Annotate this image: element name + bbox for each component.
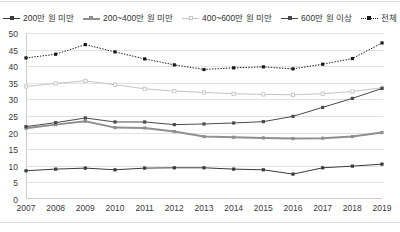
data-point-marker [351, 97, 354, 100]
data-point-marker [262, 93, 265, 96]
data-point-marker [84, 79, 87, 82]
data-point-marker [84, 120, 87, 123]
data-point-marker [143, 167, 146, 170]
data-point-marker [291, 93, 294, 96]
data-point-marker [113, 168, 116, 171]
data-point-marker [291, 115, 294, 118]
data-point-marker [232, 66, 235, 69]
data-point-marker [380, 41, 383, 44]
data-point-marker [173, 63, 176, 66]
data-point-marker [321, 106, 324, 109]
series-line [26, 43, 382, 70]
data-point-marker [321, 63, 324, 66]
legend-item-3[interactable]: 600만 원 이상 [281, 14, 352, 23]
data-point-marker [262, 120, 265, 123]
data-point-marker [143, 57, 146, 60]
series-0 [24, 163, 383, 176]
legend-item-4[interactable]: 전체 [361, 14, 397, 23]
data-point-marker [202, 135, 205, 138]
legend-label: 전체 [381, 14, 397, 23]
top-divider [0, 1, 400, 2]
y-axis-tick-label: 25 [0, 112, 18, 122]
data-point-marker [291, 67, 294, 70]
line-chart: 200만 원 미만200~400만 원 미만400~600만 원 미만600만 … [0, 0, 400, 232]
series-layer [26, 33, 382, 199]
data-point-marker [262, 168, 265, 171]
data-point-marker [262, 136, 265, 139]
x-axis-tick-label: 2019 [365, 203, 399, 213]
data-point-marker [291, 137, 294, 140]
data-point-marker [24, 125, 27, 128]
data-point-marker [380, 87, 383, 90]
legend-marker-icon [361, 14, 378, 23]
data-point-marker [84, 43, 87, 46]
data-point-marker [351, 57, 354, 60]
legend-marker-icon [3, 14, 20, 23]
bottom-divider [0, 222, 400, 223]
y-axis-tick-label: 30 [0, 95, 18, 105]
data-point-marker [202, 68, 205, 71]
data-point-marker [54, 168, 57, 171]
legend-label: 200만 원 미만 [23, 14, 74, 23]
legend-label: 600만 원 이상 [301, 14, 352, 23]
data-point-marker [262, 65, 265, 68]
data-point-marker [202, 122, 205, 125]
data-point-marker [380, 163, 383, 166]
data-point-marker [321, 92, 324, 95]
legend-label: 400~600만 원 미만 [202, 14, 272, 23]
series-2 [24, 79, 383, 96]
data-point-marker [321, 137, 324, 140]
data-point-marker [113, 50, 116, 53]
data-point-marker [202, 166, 205, 169]
data-point-marker [54, 53, 57, 56]
y-axis-tick-label: 40 [0, 62, 18, 72]
data-point-marker [54, 82, 57, 85]
y-axis-tick-label: 10 [0, 161, 18, 171]
y-axis-tick-label: 35 [0, 78, 18, 88]
data-point-marker [173, 90, 176, 93]
y-axis-tick-label: 50 [0, 29, 18, 39]
data-point-marker [54, 121, 57, 124]
data-point-marker [232, 92, 235, 95]
data-point-marker [351, 135, 354, 138]
data-point-marker [84, 116, 87, 119]
data-point-marker [321, 166, 324, 169]
data-point-marker [24, 169, 27, 172]
data-point-marker [202, 91, 205, 94]
legend-marker-icon [182, 14, 199, 23]
data-point-marker [113, 126, 116, 129]
data-point-marker [173, 123, 176, 126]
chart-legend: 200만 원 미만200~400만 원 미만400~600만 원 미만600만 … [0, 10, 400, 26]
data-point-marker [380, 131, 383, 134]
data-point-marker [232, 168, 235, 171]
data-point-marker [113, 83, 116, 86]
legend-item-0[interactable]: 200만 원 미만 [3, 14, 74, 23]
legend-item-2[interactable]: 400~600만 원 미만 [182, 14, 272, 23]
data-point-marker [291, 173, 294, 176]
y-axis-tick-label: 15 [0, 145, 18, 155]
data-point-marker [143, 120, 146, 123]
data-point-marker [84, 167, 87, 170]
data-point-marker [173, 166, 176, 169]
y-axis-tick-label: 5 [0, 178, 18, 188]
y-axis-tick-label: 45 [0, 45, 18, 55]
data-point-marker [232, 121, 235, 124]
legend-label: 200~400만 원 미만 [103, 14, 173, 23]
legend-marker-icon [83, 14, 100, 23]
y-axis-tick-label: 20 [0, 128, 18, 138]
data-point-marker [173, 130, 176, 133]
data-point-marker [143, 126, 146, 129]
data-point-marker [24, 85, 27, 88]
data-point-marker [113, 120, 116, 123]
data-point-marker [351, 90, 354, 93]
legend-marker-icon [281, 14, 298, 23]
legend-item-1[interactable]: 200~400만 원 미만 [83, 14, 173, 23]
series-4 [24, 41, 383, 71]
data-point-marker [351, 165, 354, 168]
data-point-marker [24, 56, 27, 59]
data-point-marker [232, 136, 235, 139]
data-point-marker [143, 87, 146, 90]
